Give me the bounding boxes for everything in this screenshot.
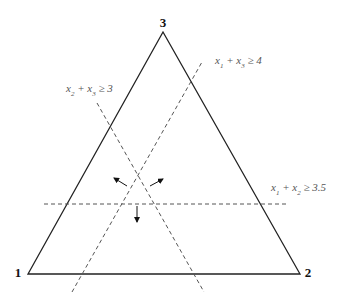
constraint-lines (44, 62, 287, 292)
constraint-label-x2-x3: x2 + x3 ≥ 3 (65, 82, 113, 98)
direction-arrows (114, 178, 163, 222)
simplex-triangle (28, 32, 300, 274)
arrow-up-left-icon (114, 178, 127, 186)
arrow-up-right-icon (150, 179, 163, 186)
constraint-label-x1-x3: x1 + x3 ≥ 4 (214, 54, 262, 70)
vertex-label-2: 2 (305, 265, 312, 280)
vertex-label-1: 1 (15, 265, 22, 280)
vertex-label-3: 3 (160, 15, 167, 30)
constraint-labels: x1 + x3 ≥ 4x2 + x3 ≥ 3x1 + x2 ≥ 3.5 (65, 54, 327, 197)
simplex-diagram: 1 2 3 x1 + x3 ≥ 4x2 + x3 ≥ 3x1 + x2 ≥ 3.… (0, 0, 343, 306)
constraint-label-x1-x2: x1 + x2 ≥ 3.5 (270, 181, 327, 197)
constraint-line-x2-x3 (97, 103, 204, 292)
